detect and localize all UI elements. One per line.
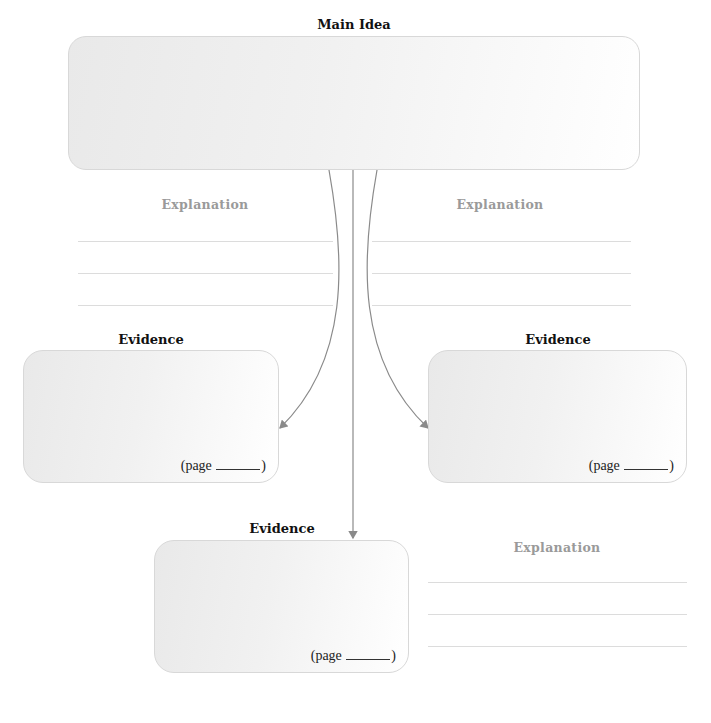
- evidence-box-bottom[interactable]: (page ): [154, 540, 409, 673]
- page-reference-bottom: (page ): [311, 648, 396, 664]
- page-label-text: (page: [311, 648, 342, 663]
- page-reference-right: (page ): [589, 458, 674, 474]
- explanation-left-line-1[interactable]: [78, 241, 333, 242]
- page-label-text: (page: [589, 458, 620, 473]
- page-close-paren: ): [391, 648, 396, 663]
- page-number-blank[interactable]: [216, 459, 260, 470]
- explanation-bottom-line-3[interactable]: [428, 646, 687, 647]
- explanation-label-right: Explanation: [425, 197, 575, 212]
- evidence-title-bottom: Evidence: [232, 521, 332, 536]
- explanation-bottom-line-1[interactable]: [428, 582, 687, 583]
- explanation-right-line-1[interactable]: [372, 241, 631, 242]
- page-close-paren: ): [261, 458, 266, 473]
- page-number-blank[interactable]: [346, 649, 390, 660]
- explanation-right-line-2[interactable]: [372, 273, 631, 274]
- arrow-to-right-evidence: [367, 170, 428, 428]
- explanation-left-line-2[interactable]: [78, 273, 333, 274]
- page-label-text: (page: [181, 458, 212, 473]
- explanation-label-left: Explanation: [130, 197, 280, 212]
- explanation-right-line-3[interactable]: [372, 305, 631, 306]
- arrow-to-left-evidence: [280, 170, 339, 428]
- evidence-title-right: Evidence: [508, 332, 608, 347]
- explanation-left-line-3[interactable]: [78, 305, 333, 306]
- page-close-paren: ): [669, 458, 674, 473]
- evidence-title-left: Evidence: [101, 332, 201, 347]
- evidence-box-right[interactable]: (page ): [428, 350, 687, 483]
- explanation-bottom-line-2[interactable]: [428, 614, 687, 615]
- explanation-label-bottom: Explanation: [482, 540, 632, 555]
- evidence-box-left[interactable]: (page ): [23, 350, 279, 483]
- page-reference-left: (page ): [181, 458, 266, 474]
- page-number-blank[interactable]: [624, 459, 668, 470]
